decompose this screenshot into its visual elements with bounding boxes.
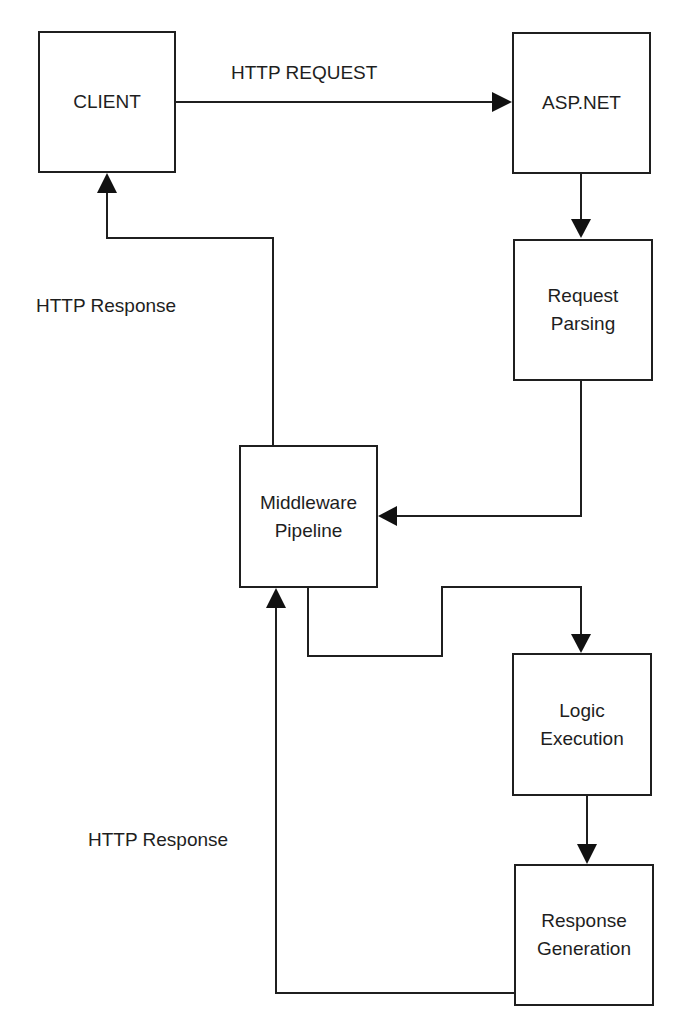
- node-aspnet: ASP.NET: [512, 32, 651, 174]
- node-label: Logic Execution: [540, 697, 623, 752]
- node-label: Response Generation: [537, 907, 631, 962]
- arrowhead-icon: [378, 506, 397, 526]
- edge-label-http-request: HTTP REQUEST: [231, 62, 377, 84]
- arrowhead-icon: [266, 588, 286, 608]
- edge-parsing-to-middleware: [396, 380, 581, 516]
- arrowhead-icon: [571, 634, 591, 653]
- arrowhead-icon: [571, 219, 591, 238]
- node-logic-execution: Logic Execution: [512, 653, 652, 796]
- node-label: Request Parsing: [548, 282, 619, 337]
- node-label: ASP.NET: [542, 89, 621, 117]
- node-label: CLIENT: [73, 88, 141, 116]
- node-request-parsing: Request Parsing: [513, 239, 653, 381]
- node-label: Middleware Pipeline: [260, 489, 357, 544]
- node-middleware: Middleware Pipeline: [239, 445, 378, 588]
- arrowhead-icon: [577, 844, 597, 864]
- node-response-generation: Response Generation: [514, 864, 654, 1006]
- arrowhead-icon: [97, 173, 117, 193]
- edge-label-http-response-top: HTTP Response: [36, 295, 176, 317]
- edge-label-http-response-bottom: HTTP Response: [88, 829, 228, 851]
- edge-middleware-to-client: [107, 192, 273, 445]
- edge-response-to-middleware: [276, 607, 514, 993]
- arrowhead-icon: [492, 92, 512, 112]
- edge-middleware-to-logic: [308, 587, 581, 656]
- node-client: CLIENT: [38, 31, 176, 173]
